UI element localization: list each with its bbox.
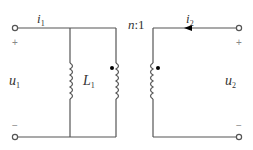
left-plus-sign: +	[12, 37, 18, 48]
l1-coil	[70, 63, 73, 99]
secondary-polarity-dot	[156, 66, 160, 70]
right-plus-sign: +	[236, 37, 242, 48]
terminal-bottom-left	[12, 134, 17, 139]
terminal-bottom-right	[236, 134, 241, 139]
i2-label: i2	[186, 11, 194, 28]
primary-polarity-dot	[110, 66, 114, 70]
right-minus-sign: −	[236, 120, 242, 131]
terminal-top-right	[236, 25, 241, 30]
l1-label: L1	[82, 73, 95, 90]
i1-label: i1	[37, 11, 45, 28]
u2-label: u2	[225, 73, 236, 90]
terminal-top-left	[12, 25, 17, 30]
circuit-diagram: i1 i2 n:1 u1 u2 L1 + − + −	[0, 0, 253, 150]
turns-ratio-label: n:1	[128, 17, 145, 32]
u1-label: u1	[9, 73, 20, 90]
primary-coil	[116, 63, 119, 99]
left-minus-sign: −	[12, 120, 18, 131]
secondary-coil	[151, 63, 154, 99]
